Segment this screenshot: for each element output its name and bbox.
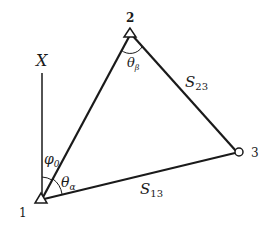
phi0-label: φ0 <box>44 151 60 169</box>
s13-label: S13 <box>140 180 163 199</box>
phi0-arc <box>42 177 52 180</box>
point-1-label: 1 <box>19 206 27 220</box>
triangle-diagram: 1 2 3 X φ0 θα θβ S23 S13 <box>0 0 272 234</box>
s23-label: S23 <box>185 73 208 92</box>
side-1-2 <box>42 35 130 199</box>
theta-alpha-label: θα <box>61 174 76 192</box>
point-2-label: 2 <box>126 11 134 25</box>
point-3-marker <box>235 148 243 156</box>
axis-x-label: X <box>34 51 48 70</box>
point-2-marker <box>124 28 136 37</box>
theta-beta-label: θβ <box>127 55 140 72</box>
point-3-label: 3 <box>251 146 259 160</box>
side-2-3 <box>132 35 236 151</box>
